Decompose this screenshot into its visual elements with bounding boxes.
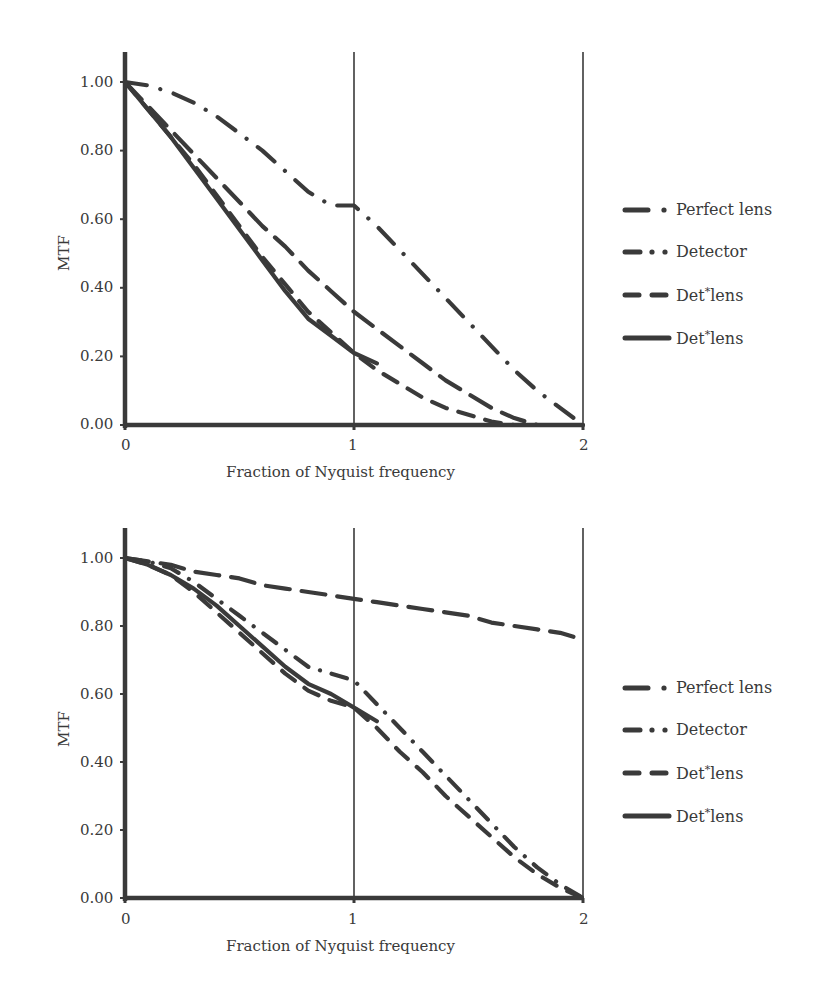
y-tick-0-60: 0.60 — [80, 210, 113, 228]
y-axis-label: MTF — [55, 235, 73, 271]
x-tick-2: 2 — [579, 436, 589, 454]
y-tick-0-00: 0.00 — [80, 415, 113, 433]
x-axis-label: Fraction of Nyquist frequency — [226, 937, 455, 955]
legend-item-perfect-lens: Perfect lens — [622, 678, 835, 700]
series-line — [125, 82, 377, 363]
chart-top: MTF 1.00 0.80 0.60 0.40 0.20 0.00 0 1 2 … — [0, 0, 835, 490]
solid-swatch-icon — [622, 809, 672, 823]
x-tick-2: 2 — [579, 910, 589, 928]
legend-item-det-lens-solid: Det*lens — [622, 806, 835, 828]
y-tick-0-40: 0.40 — [80, 753, 113, 771]
legend-label: Detector — [676, 242, 747, 261]
solid-swatch-icon — [622, 331, 672, 345]
y-tick-0-60: 0.60 — [80, 685, 113, 703]
legend-label: Det*lens — [676, 806, 743, 826]
x-tick-1: 1 — [348, 436, 358, 454]
x-tick-1: 1 — [348, 910, 358, 928]
long-dash-dot-swatch-icon — [622, 203, 672, 217]
x-tick-0: 0 — [121, 436, 131, 454]
chart-bottom: MTF 1.00 0.80 0.60 0.40 0.20 0.00 0 1 2 … — [0, 490, 835, 996]
y-tick-0-80: 0.80 — [80, 617, 113, 635]
legend-item-perfect-lens: Perfect lens — [622, 200, 835, 222]
legend-item-detector: Detector — [622, 720, 835, 742]
legend-item-det-lens-dashed: Det*lens — [622, 285, 835, 307]
y-axis-label: MTF — [55, 711, 73, 747]
dash-swatch-icon — [622, 288, 672, 302]
legend-item-det-lens-solid: Det*lens — [622, 328, 835, 350]
y-tick-0-00: 0.00 — [80, 889, 113, 907]
legend-item-detector: Detector — [622, 242, 835, 264]
x-axis-label: Fraction of Nyquist frequency — [226, 463, 455, 481]
x-tick-0: 0 — [121, 910, 131, 928]
y-tick-1-00: 1.00 — [80, 549, 113, 567]
y-tick-0-20: 0.20 — [80, 821, 113, 839]
dash-swatch-icon — [622, 766, 672, 780]
y-tick-1-00: 1.00 — [80, 73, 113, 91]
legend-label: Perfect lens — [676, 678, 772, 697]
dash-dot-dot-swatch-icon — [622, 245, 672, 259]
legend-label: Perfect lens — [676, 200, 772, 219]
dash-dot-dot-swatch-icon — [622, 723, 672, 737]
y-tick-0-20: 0.20 — [80, 347, 113, 365]
legend-label: Detector — [676, 720, 747, 739]
legend-item-det-lens-dashed: Det*lens — [622, 763, 835, 785]
long-dash-dot-swatch-icon — [622, 681, 672, 695]
y-tick-0-80: 0.80 — [80, 141, 113, 159]
legend-label: Det*lens — [676, 328, 743, 348]
legend-label: Det*lens — [676, 285, 743, 305]
y-tick-0-40: 0.40 — [80, 278, 113, 296]
legend-label: Det*lens — [676, 763, 743, 783]
